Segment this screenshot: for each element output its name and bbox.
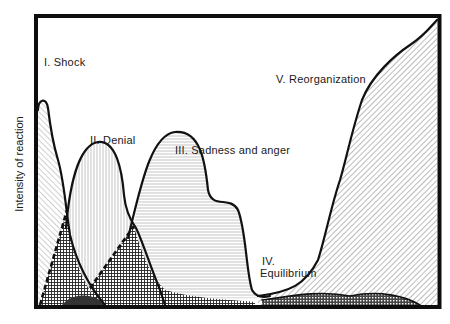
- stage-label-sadness-anger: III. Sadness and anger: [175, 144, 290, 156]
- reorganization-area: [258, 20, 437, 305]
- stage-label-reorganization: V. Reorganization: [276, 73, 366, 85]
- stage-label-equilibrium: Equilibrium: [260, 267, 317, 279]
- y-axis-label: Intensity of reaction: [13, 109, 25, 219]
- stage-label-equilibrium-numeral: IV.: [262, 255, 275, 267]
- stage-label-denial: II. Denial: [90, 134, 135, 146]
- stage-label-shock: I. Shock: [44, 56, 85, 68]
- stages-of-grief-diagram: [0, 0, 450, 324]
